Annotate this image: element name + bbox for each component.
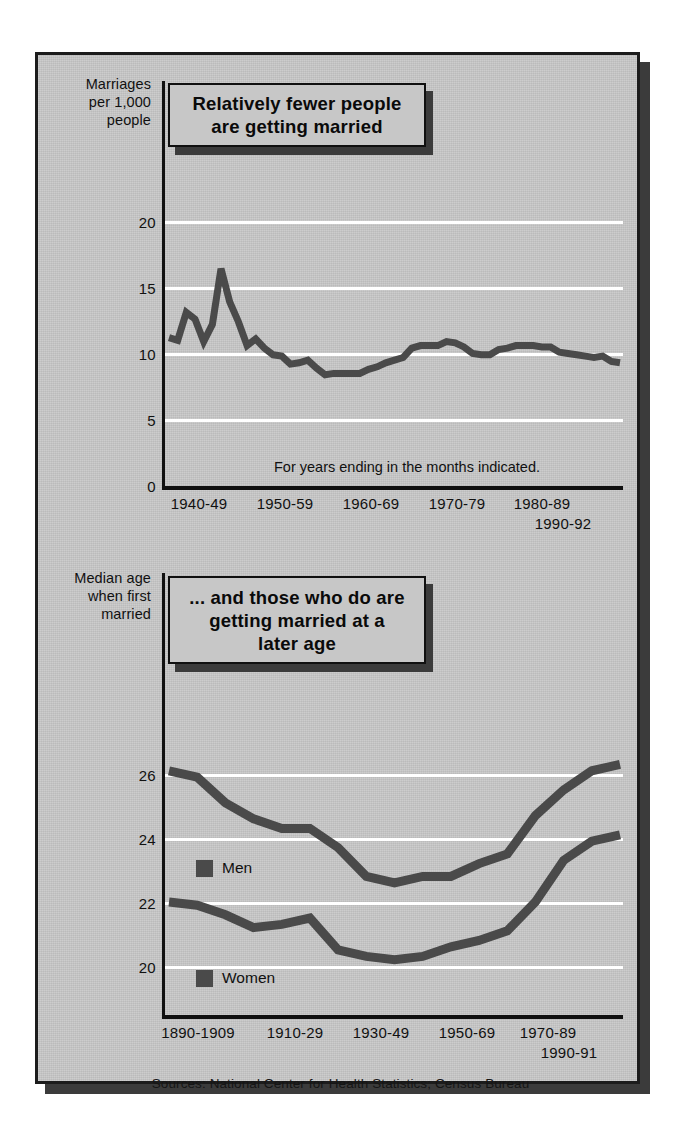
legend-women-label: Women	[222, 969, 275, 987]
top-xtick-1990-92: 1990-92	[508, 515, 618, 532]
bottom-plot-area: 26 24 22 20 Men	[38, 555, 643, 1075]
legend-swatch-men-icon	[196, 860, 213, 877]
source-note: Sources: National Center for Health Stat…	[38, 1076, 643, 1091]
legend-women: Women	[196, 969, 275, 987]
legend-swatch-women-icon	[196, 970, 213, 987]
legend-men: Men	[196, 859, 252, 877]
top-annotation: For years ending in the months indicated…	[274, 459, 540, 475]
figure-panel: Marriages per 1,000 people Relatively fe…	[35, 52, 640, 1084]
top-xtick-1980-89: 1980-89	[487, 495, 597, 512]
bottom-xtick-1990-91: 1990-91	[514, 1044, 624, 1061]
top-plot-area: 20 15 10 5 0 For years ending in the mon…	[38, 55, 643, 555]
bottom-series-group	[38, 555, 643, 1075]
chart-median-age: Median age when first married ... and th…	[38, 555, 643, 1075]
figure-root: Marriages per 1,000 people Relatively fe…	[0, 0, 682, 1124]
legend-men-label: Men	[222, 859, 252, 877]
top-series-marriage-rate	[38, 55, 643, 555]
bottom-xtick-1970-89: 1970-89	[493, 1024, 603, 1041]
chart-marriage-rate: Marriages per 1,000 people Relatively fe…	[38, 55, 643, 555]
